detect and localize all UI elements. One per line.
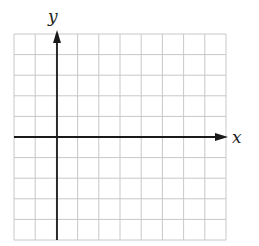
y-axis — [53, 30, 61, 240]
y-axis-label: y — [47, 6, 58, 26]
x-axis-label: x — [232, 127, 242, 147]
y-axis-arrow-icon — [53, 30, 61, 43]
coordinate-grid-diagram: x y — [0, 0, 259, 246]
x-axis — [14, 133, 228, 141]
